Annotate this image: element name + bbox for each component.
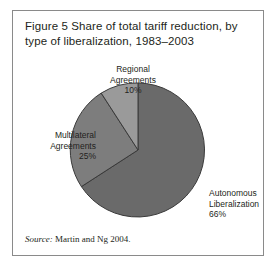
pie-label-multilateral: Multilateral Agreements 25% <box>20 130 96 162</box>
source-label: Source: <box>25 234 53 244</box>
source-citation: Martin and Ng 2004. <box>53 234 131 244</box>
pie-chart: Regional Agreements 10% Multilateral Agr… <box>12 10 264 256</box>
figure-source: Source: Martin and Ng 2004. <box>25 234 130 244</box>
pie-label-regional: Regional Agreements 10% <box>98 64 168 96</box>
figure-container: Figure 5 Share of total tariff reduction… <box>0 0 277 265</box>
pie-label-autonomous: Autonomous Liberalization 66% <box>209 188 277 220</box>
